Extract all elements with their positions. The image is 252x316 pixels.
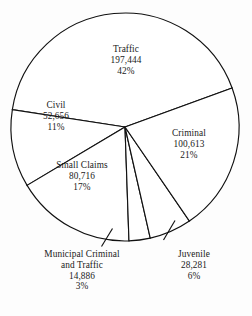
slice-label-criminal-percent: 21% <box>146 150 232 161</box>
slice-label-municipal-value: 14,886 <box>16 271 148 282</box>
slice-label-criminal: Criminal 100,613 21% <box>146 128 232 160</box>
slice-label-small-claims-percent: 17% <box>34 182 130 193</box>
slice-label-civil: Civil 52,656 11% <box>20 100 92 132</box>
slice-label-small-claims: Small Claims 80,716 17% <box>34 160 130 192</box>
slice-label-municipal-name-line1: Municipal Criminal <box>16 249 148 260</box>
slice-label-juvenile-percent: 6% <box>152 271 236 282</box>
slice-label-juvenile-name: Juvenile <box>152 249 236 260</box>
slice-label-civil-percent: 11% <box>20 122 92 133</box>
slice-label-municipal-percent: 3% <box>16 281 148 292</box>
slice-label-criminal-value: 100,613 <box>146 139 232 150</box>
slice-label-criminal-name: Criminal <box>146 128 232 139</box>
slice-label-municipal-name-line2: and Traffic <box>16 260 148 271</box>
pie-chart: Traffic 197,444 42% Civil 52,656 11% Cri… <box>0 0 252 316</box>
slice-label-civil-value: 52,656 <box>20 111 92 122</box>
slice-label-juvenile-value: 28,281 <box>152 260 236 271</box>
slice-label-municipal-criminal-and-traffic: Municipal Criminal and Traffic 14,886 3% <box>16 249 148 292</box>
slice-label-traffic-name: Traffic <box>78 44 174 55</box>
slice-label-small-claims-value: 80,716 <box>34 171 130 182</box>
slice-label-traffic-percent: 42% <box>78 66 174 77</box>
slice-label-traffic: Traffic 197,444 42% <box>78 44 174 76</box>
slice-label-civil-name: Civil <box>20 100 92 111</box>
slice-label-traffic-value: 197,444 <box>78 55 174 66</box>
slice-label-small-claims-name: Small Claims <box>34 160 130 171</box>
slice-label-juvenile: Juvenile 28,281 6% <box>152 249 236 281</box>
